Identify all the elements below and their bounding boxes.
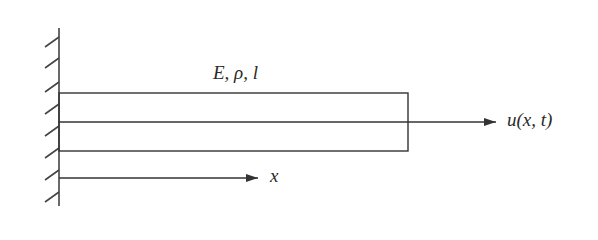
bar-properties-label: E, ρ, l [213,62,258,84]
x-axis-label: x [270,165,278,187]
fixed-wall [45,28,59,206]
displacement-label: u(x, t) [507,109,552,131]
